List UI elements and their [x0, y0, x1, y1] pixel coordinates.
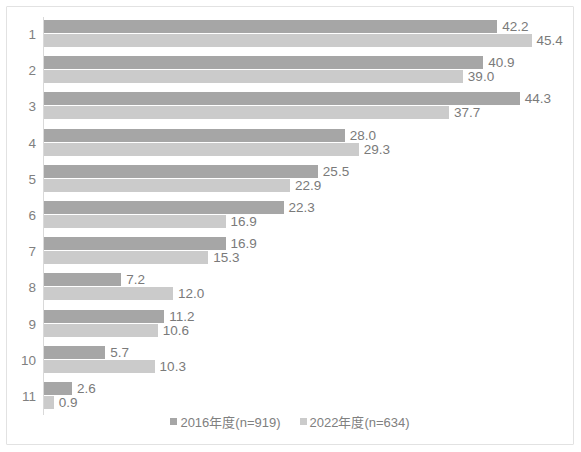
- bar-value-label: 12.0: [173, 287, 204, 300]
- category-label: 3: [28, 92, 36, 122]
- bar-row: 0.9: [44, 396, 566, 409]
- category-label: 9: [28, 310, 36, 340]
- bar[interactable]: [44, 360, 155, 373]
- bar-value-label: 10.3: [155, 360, 186, 373]
- plot-area: 142.245.4240.939.0344.337.7428.029.3525.…: [43, 17, 565, 415]
- category-label: 7: [28, 237, 36, 267]
- bar-row: 28.0: [44, 129, 566, 142]
- bar-row: 12.0: [44, 287, 566, 300]
- bar[interactable]: [44, 106, 449, 119]
- category-label: 2: [28, 56, 36, 86]
- bar[interactable]: [44, 179, 290, 192]
- bar[interactable]: [44, 287, 173, 300]
- bar-row: 22.3: [44, 201, 566, 214]
- bar-row: 29.3: [44, 143, 566, 156]
- bar-value-label: 10.6: [158, 324, 189, 337]
- bar-value-label: 22.3: [284, 201, 315, 214]
- bar-row: 42.2: [44, 20, 566, 33]
- category-label: 11: [22, 382, 36, 412]
- bar[interactable]: [44, 396, 54, 409]
- bar-value-label: 15.3: [208, 251, 239, 264]
- bar-group: 716.915.3: [43, 237, 565, 267]
- category-label: 1: [28, 20, 36, 50]
- bar-row: 22.9: [44, 179, 566, 192]
- bar-row: 40.9: [44, 56, 566, 69]
- bar-value-label: 5.7: [105, 346, 129, 359]
- category-label: 10: [21, 346, 36, 376]
- bar-row: 44.3: [44, 92, 566, 105]
- bar-value-label: 37.7: [449, 106, 480, 119]
- bar[interactable]: [44, 34, 532, 47]
- bar-group: 525.522.9: [43, 165, 565, 195]
- bar-group: 622.316.9: [43, 201, 565, 231]
- bar[interactable]: [44, 70, 463, 83]
- category-label: 5: [28, 165, 36, 195]
- bar-value-label: 40.9: [483, 56, 514, 69]
- bar-group: 87.212.0: [43, 273, 565, 303]
- bar-row: 45.4: [44, 34, 566, 47]
- bar-row: 5.7: [44, 346, 566, 359]
- legend-swatch-icon-2016: [170, 418, 177, 425]
- bar-row: 11.2: [44, 310, 566, 323]
- bar[interactable]: [44, 237, 226, 250]
- bar[interactable]: [44, 324, 158, 337]
- bar[interactable]: [44, 346, 105, 359]
- bar-row: 25.5: [44, 165, 566, 178]
- bar-value-label: 42.2: [497, 20, 528, 33]
- bar-value-label: 25.5: [318, 165, 349, 178]
- bar[interactable]: [44, 215, 226, 228]
- bar-value-label: 16.9: [226, 237, 257, 250]
- bar-row: 16.9: [44, 237, 566, 250]
- bar[interactable]: [44, 310, 164, 323]
- bar-value-label: 44.3: [520, 92, 551, 105]
- bar-group: 428.029.3: [43, 129, 565, 159]
- bar-group: 240.939.0: [43, 56, 565, 86]
- bar-value-label: 7.2: [121, 273, 145, 286]
- chart-legend: 2016年度(n=919) 2022年度(n=634): [7, 412, 573, 431]
- bar[interactable]: [44, 56, 483, 69]
- legend-item-2022[interactable]: 2022年度(n=634): [300, 412, 410, 431]
- bar-value-label: 22.9: [290, 179, 321, 192]
- bar-value-label: 2.6: [72, 382, 96, 395]
- bar-group: 112.60.9: [43, 382, 565, 412]
- category-label: 4: [28, 129, 36, 159]
- bar[interactable]: [44, 201, 284, 214]
- legend-label-2022: 2022年度(n=634): [310, 412, 410, 431]
- bar-value-label: 0.9: [54, 396, 78, 409]
- bar-row: 10.3: [44, 360, 566, 373]
- bar-value-label: 11.2: [164, 310, 194, 323]
- bar[interactable]: [44, 382, 72, 395]
- bar-row: 10.6: [44, 324, 566, 337]
- bar-value-label: 39.0: [463, 70, 494, 83]
- bar[interactable]: [44, 143, 359, 156]
- bar-row: 7.2: [44, 273, 566, 286]
- bar[interactable]: [44, 129, 345, 142]
- bar[interactable]: [44, 165, 318, 178]
- bar-row: 39.0: [44, 70, 566, 83]
- bar-row: 2.6: [44, 382, 566, 395]
- bar-value-label: 45.4: [532, 34, 563, 47]
- bar-group: 344.337.7: [43, 92, 565, 122]
- legend-item-2016[interactable]: 2016年度(n=919): [170, 412, 280, 431]
- chart-container: 142.245.4240.939.0344.337.7428.029.3525.…: [0, 0, 581, 452]
- bar[interactable]: [44, 92, 520, 105]
- bar[interactable]: [44, 20, 497, 33]
- legend-label-2016: 2016年度(n=919): [180, 412, 280, 431]
- bar-row: 16.9: [44, 215, 566, 228]
- bar[interactable]: [44, 273, 121, 286]
- bar-group: 105.710.3: [43, 346, 565, 376]
- category-label: 6: [28, 201, 36, 231]
- bar-row: 37.7: [44, 106, 566, 119]
- bar-value-label: 16.9: [226, 215, 257, 228]
- bar-value-label: 28.0: [345, 129, 376, 142]
- bar-row: 15.3: [44, 251, 566, 264]
- bar[interactable]: [44, 251, 208, 264]
- bar-value-label: 29.3: [359, 143, 390, 156]
- bar-group: 142.245.4: [43, 20, 565, 50]
- legend-swatch-icon-2022: [300, 418, 307, 425]
- chart-frame: 142.245.4240.939.0344.337.7428.029.3525.…: [6, 6, 574, 445]
- bar-group: 911.210.6: [43, 310, 565, 340]
- category-label: 8: [28, 273, 36, 303]
